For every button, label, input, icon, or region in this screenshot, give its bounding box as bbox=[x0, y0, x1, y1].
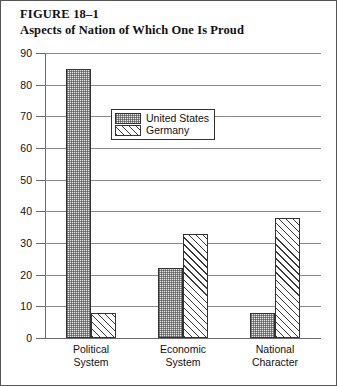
bar-united-states-1 bbox=[66, 69, 91, 338]
y-axis-tick-label: 30 bbox=[6, 238, 32, 248]
figure-number: FIGURE 18–1 bbox=[20, 7, 320, 22]
legend-item-united-states: United States bbox=[115, 113, 209, 124]
y-axis-tick-mark bbox=[36, 275, 45, 276]
y-axis-tick-label: 10 bbox=[6, 301, 32, 311]
y-axis-tick-mark bbox=[36, 306, 45, 307]
y-axis-tick-mark bbox=[36, 116, 45, 117]
y-axis-tick-label: 40 bbox=[6, 206, 32, 216]
y-axis-tick-label: 70 bbox=[6, 111, 32, 121]
bar-germany-1 bbox=[91, 313, 116, 338]
y-axis-tick-label: 0 bbox=[6, 333, 32, 343]
y-axis-tick-mark bbox=[36, 53, 45, 54]
chart-legend: United States Germany bbox=[111, 109, 215, 140]
bar-united-states-3 bbox=[250, 313, 275, 338]
legend-label-germany: Germany bbox=[146, 125, 189, 136]
y-axis-tick-label: 80 bbox=[6, 80, 32, 90]
chart-plot-area: 9080706050403020100 bbox=[45, 53, 321, 338]
x-axis-label-3: National Character bbox=[229, 343, 321, 369]
y-axis-tick-mark bbox=[36, 338, 45, 339]
bar-germany-3 bbox=[275, 218, 300, 338]
x-axis-label-1: Political System bbox=[45, 343, 137, 369]
gridline bbox=[45, 338, 321, 339]
bar-germany-2 bbox=[183, 234, 208, 339]
x-axis-label-2: Economic System bbox=[137, 343, 229, 369]
y-axis-tick-label: 50 bbox=[6, 175, 32, 185]
y-axis-tick-mark bbox=[36, 211, 45, 212]
bar-united-states-2 bbox=[158, 268, 183, 338]
legend-label-united-states: United States bbox=[146, 113, 209, 124]
legend-swatch-germany-icon bbox=[115, 125, 141, 136]
figure-title-block: FIGURE 18–1 Aspects of Nation of Which O… bbox=[20, 7, 320, 38]
y-axis-tick-label: 90 bbox=[6, 48, 32, 58]
y-axis-tick-mark bbox=[36, 148, 45, 149]
y-axis-tick-mark bbox=[36, 180, 45, 181]
y-axis-line bbox=[45, 53, 46, 338]
legend-swatch-united-states-icon bbox=[115, 113, 141, 124]
y-axis-tick-label: 60 bbox=[6, 143, 32, 153]
gridline bbox=[45, 53, 321, 54]
page-title: Aspects of Nation of Which One Is Proud bbox=[20, 22, 320, 38]
y-axis-tick-mark bbox=[36, 243, 45, 244]
y-axis-tick-label: 20 bbox=[6, 270, 32, 280]
legend-item-germany: Germany bbox=[115, 125, 209, 136]
y-axis-tick-mark bbox=[36, 85, 45, 86]
figure-container: FIGURE 18–1 Aspects of Nation of Which O… bbox=[0, 0, 337, 386]
